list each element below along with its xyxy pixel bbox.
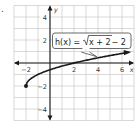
svg-text:−2: −2 — [21, 66, 31, 74]
svg-text:2: 2 — [43, 37, 47, 45]
svg-text:y: y — [53, 6, 58, 14]
svg-text:2: 2 — [72, 66, 76, 74]
svg-text:−2: −2 — [37, 83, 47, 91]
svg-text:6: 6 — [120, 66, 124, 74]
svg-text:x: x — [129, 66, 134, 74]
svg-text:x + 2: x + 2 — [89, 38, 111, 47]
svg-text:h(x) =: h(x) = — [55, 38, 80, 47]
svg-text:4: 4 — [96, 66, 100, 74]
svg-text:− 2: − 2 — [112, 38, 126, 47]
svg-text:−4: −4 — [37, 106, 47, 114]
function-label-box: h(x) = x + 2 − 2 — [53, 33, 132, 57]
svg-text:4: 4 — [43, 14, 47, 22]
function-graph: −2246x42−2−4y h(x) = x + 2 − 2 — [0, 0, 136, 125]
